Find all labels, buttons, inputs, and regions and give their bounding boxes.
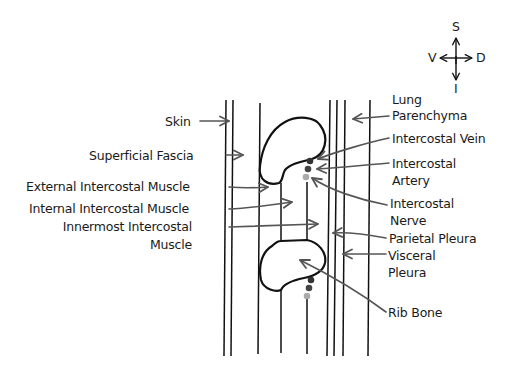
lower-neurovascular-bundle	[304, 277, 315, 300]
pleura-line-2	[334, 100, 337, 356]
arrow-innermost-intercostal	[229, 224, 318, 227]
compass-superior-label: S	[452, 20, 460, 34]
upper-nerve-dot	[303, 174, 310, 181]
upper-artery-dot	[305, 166, 312, 173]
lower-vein-dot	[308, 277, 315, 284]
arrow-intercostal-nerve	[312, 178, 387, 205]
label-intercostal-vein: Intercostal Vein	[392, 131, 486, 146]
arrow-internal-intercostal	[229, 202, 292, 209]
lung-boundary-line	[368, 100, 370, 356]
label-lung-parenchyma: Lung Parenchyma	[392, 92, 467, 123]
label-skin: Skin	[165, 114, 191, 129]
label-internal-intercostal-muscle: Internal Intercostal Muscle	[29, 201, 189, 216]
label-external-intercostal-muscle: External Intercostal Muscle	[26, 179, 190, 194]
superficial-fascia-line	[258, 103, 260, 354]
lower-nerve-dot	[304, 293, 311, 300]
arrow-parietal-pleura	[333, 233, 386, 238]
upper-rib-bone	[260, 118, 326, 184]
lower-artery-dot	[306, 285, 313, 292]
lower-rib-bone	[260, 240, 325, 291]
label-innermost-intercostal-muscle: Innermost Intercostal Muscle	[60, 219, 192, 252]
label-rib-bone: Rib Bone	[388, 305, 442, 320]
compass-dorsal-label: D	[476, 51, 486, 65]
label-superficial-fascia: Superficial Fascia	[89, 148, 194, 163]
skin-line-inner	[231, 100, 233, 356]
compass-ventral-label: V	[428, 51, 437, 65]
orientation-compass	[440, 38, 472, 80]
label-intercostal-artery: Intercostal Artery	[392, 156, 456, 188]
label-intercostal-nerve: Intercostal Nerve	[390, 196, 454, 228]
upper-vein-dot	[307, 158, 314, 165]
label-visceral-pleura: Visceral Pleura	[388, 248, 436, 280]
pleura-line-3	[343, 100, 345, 356]
label-parietal-pleura: Parietal Pleura	[389, 231, 476, 246]
arrow-lung-parenchyma	[353, 116, 389, 119]
skin-line-outer	[224, 100, 226, 356]
arrow-external-intercostal	[229, 187, 268, 188]
arrow-intercostal-artery	[317, 163, 389, 169]
pleura-line-1	[327, 100, 330, 356]
